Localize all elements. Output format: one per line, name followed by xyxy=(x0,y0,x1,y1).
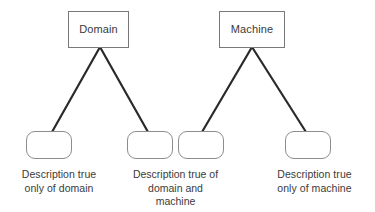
node-domain[interactable]: Domain xyxy=(68,11,129,48)
caption-domain-only: Description true only of domain xyxy=(4,168,114,195)
node-box-4[interactable] xyxy=(285,131,331,159)
caption-domain-only-line-1: Description true xyxy=(4,168,114,182)
edge-machine-to-box-4 xyxy=(252,47,306,132)
node-box-2[interactable] xyxy=(127,131,173,159)
edge-domain-to-box-2 xyxy=(100,47,148,132)
edge-machine-to-box-3 xyxy=(202,47,252,132)
caption-domain-and-machine-line-1: Description true of xyxy=(113,168,238,182)
caption-domain-only-line-2: only of domain xyxy=(4,182,114,196)
node-machine-label: Machine xyxy=(231,23,273,36)
caption-machine-only: Description true only of machine xyxy=(258,168,371,195)
node-machine[interactable]: Machine xyxy=(219,11,285,48)
node-domain-label: Domain xyxy=(79,23,118,36)
edge-domain-to-box-1 xyxy=(52,47,100,132)
diagram-canvas: Domain Machine Description true only of … xyxy=(0,0,375,212)
caption-machine-only-line-1: Description true xyxy=(258,168,371,182)
caption-domain-and-machine-line-3: machine xyxy=(113,195,238,209)
node-box-1[interactable] xyxy=(26,131,72,159)
caption-machine-only-line-2: only of machine xyxy=(258,182,371,196)
node-box-3[interactable] xyxy=(178,131,224,159)
caption-domain-and-machine-line-2: domain and xyxy=(113,182,238,196)
caption-domain-and-machine: Description true of domain and machine xyxy=(113,168,238,212)
